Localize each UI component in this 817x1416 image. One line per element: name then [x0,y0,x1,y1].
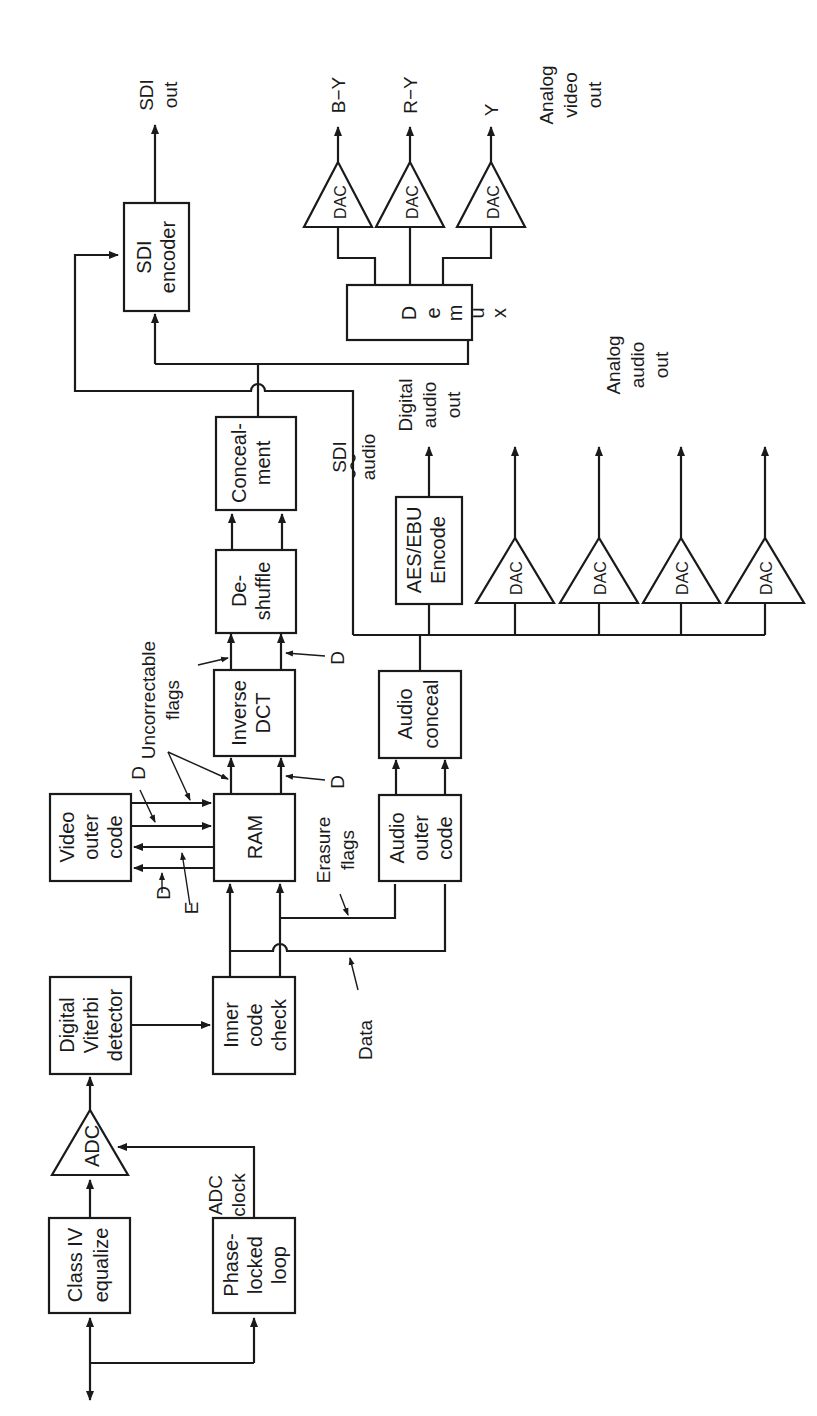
ram-label: RAM [244,815,266,859]
pll-label-3: loop [268,1246,290,1284]
aes-ebu-label-1: AES/EBU [403,507,425,594]
analog-video-out-label-3: out [584,81,605,108]
data-label: Data [355,1020,376,1061]
concealment-label-2: ment [252,440,274,485]
svg-text:DAC: DAC [332,185,349,219]
demux-block: D e m u x [347,285,510,340]
svg-text:DAC: DAC [404,185,421,219]
idct-label-1: Inverse [228,680,250,746]
inverse-dct-block: Inverse DCT [214,670,295,756]
input-wiring [90,1318,254,1400]
demux-letter-x: x [488,308,510,318]
d-label-video-out: D [153,886,174,900]
audio-dac-2: DAC [560,538,638,603]
demux-letter-m: m [444,305,466,322]
class-iv-equalize-block: Class IV equalize [49,1218,130,1313]
demux-letter-d: D [398,306,420,320]
deshuffle-block: De- shuffle [216,550,296,633]
svg-text:DAC: DAC [592,561,609,595]
concealment-block: Conceal- ment [216,417,296,510]
class-iv-label-1: Class IV [64,1227,86,1302]
erasure-flags-label-1: Erasure [313,817,334,884]
adc-triangle: ADC [52,1110,128,1175]
deshuffle-label-1: De- [228,575,250,607]
y-label: Y [481,103,502,116]
pll-label-2: locked [244,1236,266,1294]
aes-ebu-encode-block: AES/EBU Encode [396,497,462,604]
d-label-idct-in: D [327,775,348,789]
inner-label-2: code [244,1003,266,1046]
sdi-audio-label-1: SDI [329,441,350,473]
audio-outer-code-block: Audio outer code [379,795,461,881]
ram-block: RAM [214,794,295,881]
class-iv-label-2: equalize [90,1228,112,1303]
pll-label-1: Phase- [220,1233,242,1296]
inner-label-1: Inner [220,1002,242,1048]
viterbi-label-3: detector [104,989,126,1062]
audio-dac-3: DAC [643,538,720,603]
video-outer-label-2: outer [80,814,102,860]
e-label: E [181,902,202,915]
demux-letter-e: e [422,307,444,318]
svg-text:DAC: DAC [674,561,691,595]
uncorrectable-flags-label-1: Uncorrectable [138,641,159,759]
analog-video-out-label-1: Analog [536,65,557,124]
idct-label-2: DCT [252,692,274,733]
concealment-label-1: Conceal- [228,423,250,503]
digital-viterbi-detector-block: Digital Viterbi detector [50,977,131,1074]
digital-audio-out-label-2: audio [419,382,440,429]
video-outer-code-block: Video outer code [50,794,131,881]
video-dac-y: DAC [457,162,525,227]
deshuffle-label-2: shuffle [252,562,274,621]
r-y-label: R−Y [400,76,421,114]
adc-clock-label-1: ADC [205,1175,226,1215]
audio-conceal-label-2: conceal [420,680,442,749]
d-label-video-in: D [128,766,149,780]
svg-text:DAC: DAC [758,561,775,595]
video-outer-label-3: code [104,815,126,858]
sdi-out-label-1: SDI [136,79,157,111]
adc-clock-label-2: clock [228,1173,249,1217]
video-dac-r-y: DAC [376,162,444,227]
sdi-encoder-block: SDI encoder [124,203,189,311]
sdi-encoder-label-2: encoder [157,221,179,294]
sdi-audio-label-2: audio [358,434,379,481]
audio-outer-label-1: Audio [386,812,408,863]
phase-locked-loop-block: Phase- locked loop [213,1218,295,1313]
d-label-deshuffle-in: D [327,651,348,665]
analog-audio-out-label-1: Analog [603,335,624,394]
inner-label-3: check [268,998,290,1051]
video-dac-b-y: DAC [304,162,372,227]
svg-text:DAC: DAC [485,185,502,219]
viterbi-label-1: Digital [56,997,78,1053]
analog-video-out-label-2: video [560,72,581,117]
digital-audio-out-label-3: out [443,391,464,418]
audio-dac-4: DAC [726,538,804,603]
inner-code-check-block: Inner code check [213,977,295,1074]
block-diagram: Class IV equalize Phase- locked loop ADC… [0,0,817,1416]
audio-conceal-block: Audio conceal [379,671,461,758]
uncorrectable-flags-label-2: flags [162,680,183,720]
svg-text:DAC: DAC [508,561,525,595]
audio-conceal-label-1: Audio [394,688,416,739]
digital-audio-out-label-1: Digital [395,379,416,432]
aes-ebu-label-2: Encode [427,516,449,584]
adc-label: ADC [81,1125,103,1167]
viterbi-label-2: Viterbi [80,997,102,1053]
analog-audio-out-label-2: audio [627,342,648,389]
demux-letter-u: u [466,307,488,318]
video-outer-label-1: Video [56,812,78,863]
analog-audio-out-label-3: out [651,351,672,378]
erasure-flags-label-2: flags [337,830,358,870]
b-y-label: B−Y [328,76,349,113]
sdi-encoder-label-1: SDI [133,240,155,273]
sdi-out-label-2: out [160,81,181,108]
audio-outer-label-2: outer [410,815,432,861]
audio-outer-label-3: code [434,816,456,859]
audio-dac-1: DAC [476,538,554,603]
